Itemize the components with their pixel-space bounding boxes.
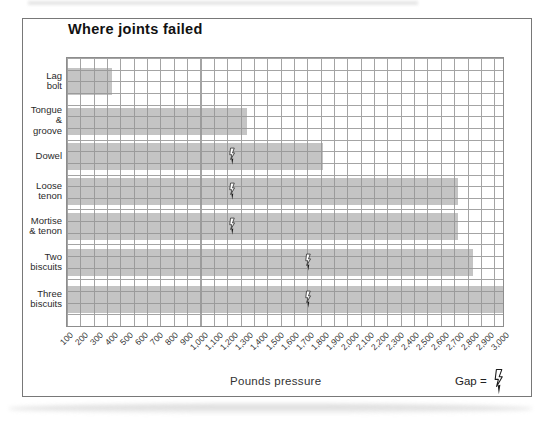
figure-canvas: Where joints failed Lag boltTongue & gro… bbox=[0, 0, 555, 421]
bar-mortise-tenon bbox=[67, 213, 458, 240]
row-label: Mortise & tenon bbox=[2, 215, 62, 236]
lightning-gap-icon bbox=[492, 369, 505, 399]
row-label: Lag bolt bbox=[2, 70, 62, 91]
bar-lag-bolt bbox=[67, 68, 112, 95]
bar-three-biscuits bbox=[67, 286, 503, 313]
plot-grid bbox=[66, 57, 504, 327]
gap-marker-icon bbox=[304, 289, 312, 310]
bar-loose-tenon bbox=[67, 178, 458, 205]
bar-dowel bbox=[67, 143, 323, 170]
gap-legend-label: Gap = bbox=[455, 375, 487, 387]
gap-marker-icon bbox=[228, 181, 236, 202]
row-label: Tongue & groove bbox=[2, 105, 62, 137]
bar-tongue-groove bbox=[67, 108, 247, 135]
bar-two-biscuits bbox=[67, 249, 473, 276]
gap-marker-icon bbox=[228, 216, 236, 237]
scan-artifact-bottom bbox=[8, 404, 533, 413]
gap-marker-icon bbox=[304, 252, 312, 273]
row-label: Two biscuits bbox=[2, 251, 62, 272]
chart-title: Where joints failed bbox=[68, 21, 203, 37]
row-label: Dowel bbox=[2, 150, 62, 161]
gap-marker-icon bbox=[228, 146, 236, 167]
row-label: Loose tenon bbox=[2, 180, 62, 201]
x-axis-title: Pounds pressure bbox=[230, 375, 321, 387]
row-label: Three biscuits bbox=[2, 288, 62, 309]
scan-artifact-top bbox=[28, 1, 418, 5]
